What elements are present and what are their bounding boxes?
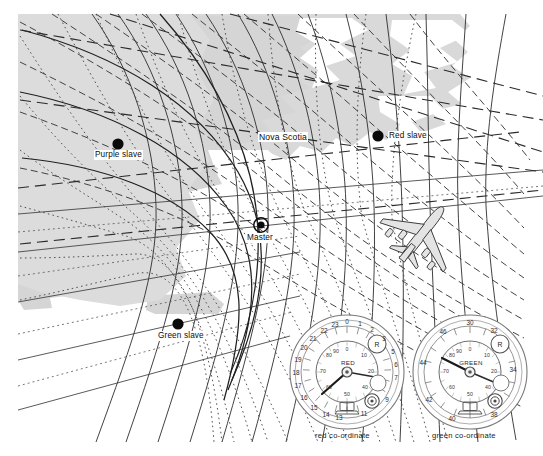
green-side-knob xyxy=(493,375,509,391)
red-decometer-caption: red co-ordinate xyxy=(315,431,370,440)
green-lamp-knob xyxy=(488,394,502,408)
map-label-green-slave: Green slave xyxy=(157,331,205,341)
map-label-master: Master xyxy=(246,233,274,243)
red-side-knob xyxy=(370,375,386,391)
map-label-red-slave: Red slave xyxy=(388,131,428,141)
green-slave-marker xyxy=(172,318,183,329)
decca-navigator-figure: Nova Scotia Red slave Purple slave Green… xyxy=(0,0,543,456)
map-label-nova-scotia: Nova Scotia xyxy=(258,132,308,142)
map-label-purple-slave: Purple slave xyxy=(94,150,143,160)
red-lamp-knob xyxy=(365,394,379,408)
green-decometer-caption: green co-ordinate xyxy=(432,431,496,440)
purple-slave-marker xyxy=(112,138,123,149)
red-slave-marker xyxy=(372,130,383,141)
landmass-shading xyxy=(18,14,470,344)
chart-canvas xyxy=(0,0,543,456)
red-decometer[interactable] xyxy=(290,315,404,429)
